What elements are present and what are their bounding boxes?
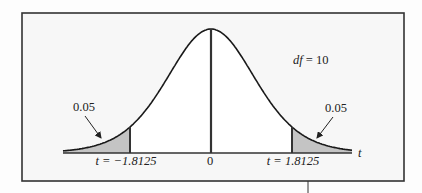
df-label: df = 10 xyxy=(293,53,329,67)
left-area-label: 0.05 xyxy=(73,100,95,114)
left-critical-label: t = −1.8125 xyxy=(96,154,157,168)
center-tick-label: 0 xyxy=(207,154,213,168)
right-critical-label: t = 1.8125 xyxy=(267,154,320,168)
right-area-label: 0.05 xyxy=(325,101,347,115)
df-value: = 10 xyxy=(303,53,329,67)
t-axis-label: t xyxy=(358,146,362,160)
t-distribution-figure: 0.05 0.05 df = 10 t = −1.8125 0 t = 1.81… xyxy=(0,0,422,193)
